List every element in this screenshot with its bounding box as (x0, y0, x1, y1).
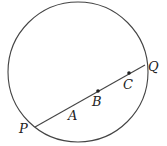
circle-chord-diagram: P Q A B C (0, 0, 167, 146)
label-p: P (18, 121, 28, 136)
label-c: C (123, 77, 133, 92)
point-c-dot (127, 71, 131, 75)
label-q: Q (148, 59, 159, 74)
point-b-dot (96, 89, 100, 93)
circle (8, 2, 148, 142)
label-b: B (91, 94, 102, 109)
label-a: A (67, 108, 77, 123)
